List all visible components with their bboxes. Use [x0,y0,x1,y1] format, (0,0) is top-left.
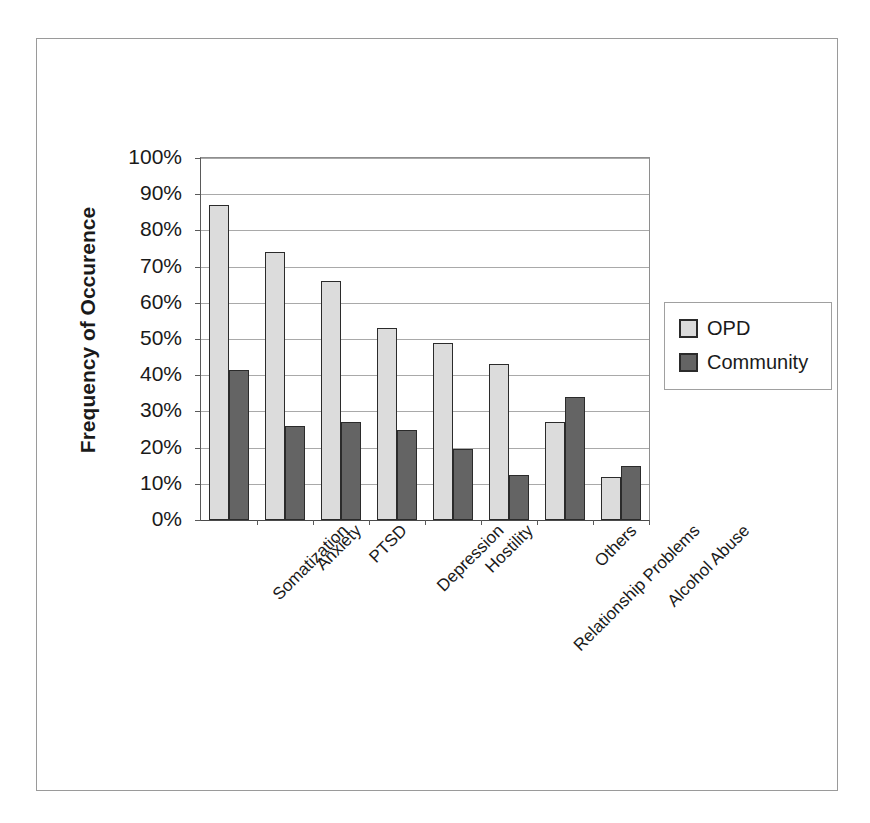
bar-opd [433,343,453,520]
legend-entry: Community [679,351,808,374]
y-axis-tick-label: 20% [94,435,182,459]
y-axis-tick-label: 0% [94,507,182,531]
x-axis-category-labels: SomatizationAnxietyPTSDDepressionHostili… [200,521,648,671]
bar-community [397,430,417,521]
bar-opd [321,281,341,520]
legend-label: OPD [707,317,750,340]
bar-opd [489,364,509,520]
y-axis-tick-labels: 100%90%80%70%60%50%40%30%20%10%0% [96,157,190,519]
bar-group [425,158,481,520]
y-axis-tick-label: 50% [94,326,182,350]
bar-group [313,158,369,520]
y-axis-tick-mark [195,411,201,412]
y-axis-tick-mark [195,158,201,159]
y-axis-tick-label: 60% [94,290,182,314]
chart-figure: Frequency of Occurence 100%90%80%70%60%5… [0,0,870,823]
y-axis-tick-mark [195,194,201,195]
bar-community [509,475,529,520]
legend-entry: OPD [679,317,750,340]
bar-opd [209,205,229,520]
y-axis-tick-label: 30% [94,398,182,422]
bar-group [537,158,593,520]
y-axis-tick-mark [195,375,201,376]
bar-group [481,158,537,520]
bar-community [621,466,641,520]
x-axis-label-others: Others [591,521,641,571]
community-swatch [679,353,698,372]
y-axis-tick-mark [195,303,201,304]
bar-group [369,158,425,520]
bar-opd [545,422,565,520]
bar-opd [377,328,397,520]
bar-community [565,397,585,520]
bar-group [257,158,313,520]
bar-community [229,370,249,520]
x-axis-tick-mark [649,520,650,525]
y-axis-tick-mark [195,230,201,231]
y-axis-tick-mark [195,339,201,340]
chart-legend: OPDCommunity [664,302,832,390]
y-axis-tick-label: 80% [94,217,182,241]
legend-label: Community [707,351,808,374]
y-axis-tick-mark [195,267,201,268]
y-axis-tick-mark [195,448,201,449]
bar-group [201,158,257,520]
y-axis-tick-label: 90% [94,181,182,205]
y-axis-tick-label: 40% [94,362,182,386]
x-axis-label-ptsd: PTSD [365,521,411,567]
bars-layer [201,158,649,520]
bar-community [341,422,361,520]
bar-opd [265,252,285,520]
y-axis-tick-label: 10% [94,471,182,495]
bar-community [453,449,473,520]
y-axis-tick-label: 100% [94,145,182,169]
y-axis-tick-mark [195,484,201,485]
bar-opd [601,477,621,520]
plot-area [200,157,650,521]
bar-community [285,426,305,520]
opd-swatch [679,319,698,338]
bar-group [593,158,649,520]
y-axis-tick-label: 70% [94,254,182,278]
